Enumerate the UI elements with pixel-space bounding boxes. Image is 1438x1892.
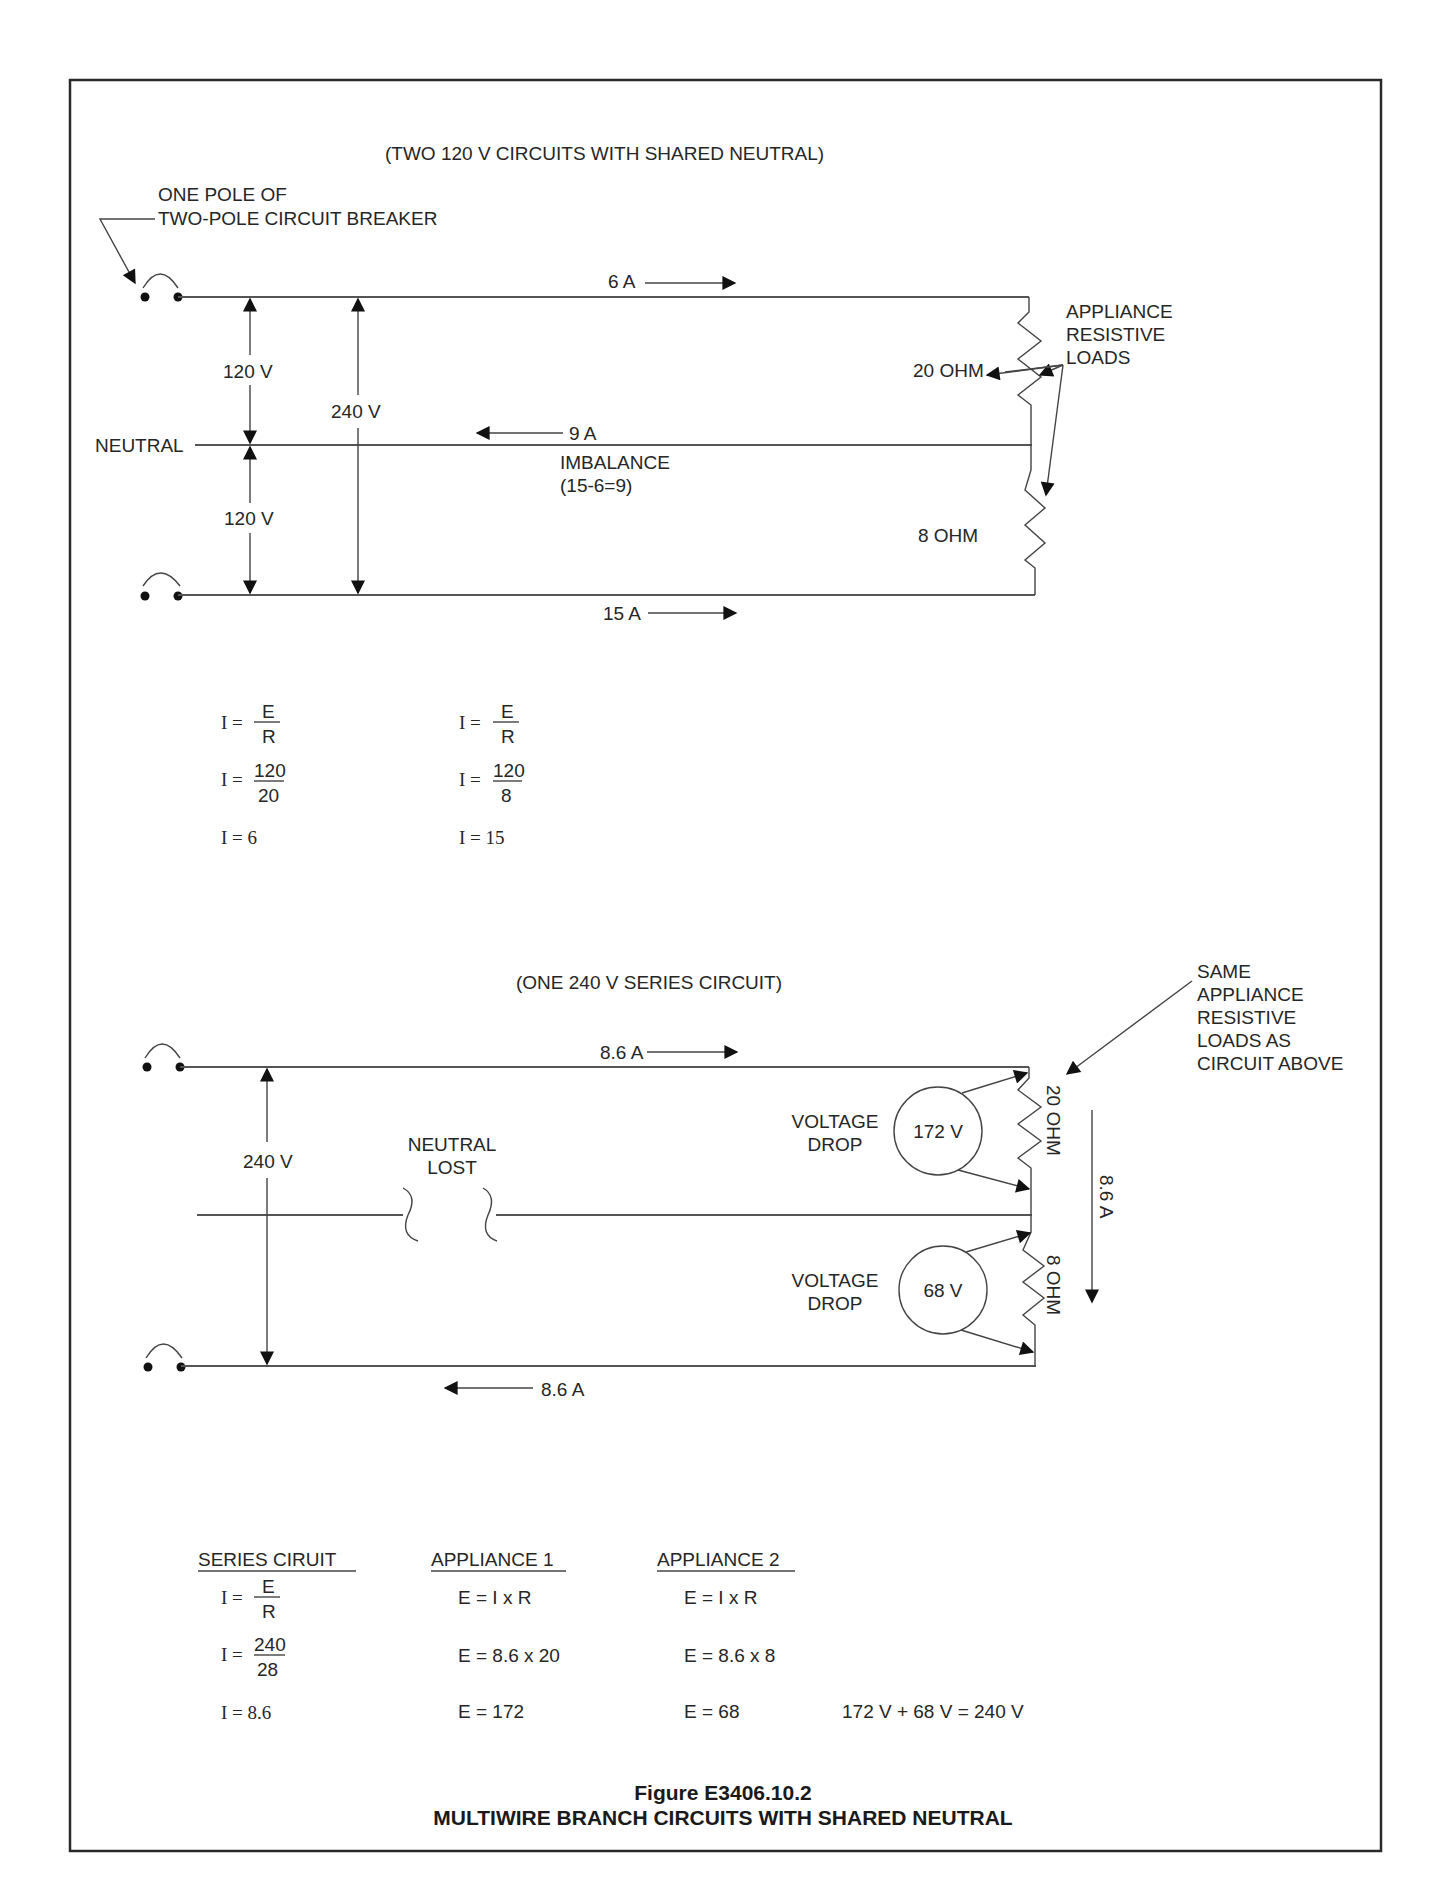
calc-denominator: R (262, 1601, 276, 1622)
calc-denominator: R (501, 726, 515, 747)
calc-row: E = I x R (684, 1587, 757, 1608)
imbalance-label: (15-6=9) (560, 475, 632, 496)
figure-number: Figure E3406.10.2 (634, 1781, 811, 1804)
breaker-pole-icon (143, 1044, 185, 1072)
voltage-sum: 172 V + 68 V = 240 V (842, 1701, 1024, 1722)
imbalance-label: IMBALANCE (560, 452, 670, 473)
calc-result: E = 172 (458, 1701, 524, 1722)
calc-denominator: 28 (257, 1659, 278, 1680)
load-20-ohm-label: 20 OHM (1043, 1085, 1064, 1156)
resistor-8-ohm-icon (1025, 445, 1045, 595)
appliance-loads-label: APPLIANCE (1066, 301, 1173, 322)
voltage-drop-label: VOLTAGE (792, 1111, 879, 1132)
calc-denominator: R (262, 726, 276, 747)
voltage-drop-172-value: 172 V (913, 1121, 963, 1142)
same-loads-label: SAME (1197, 961, 1251, 982)
appliance-loads-label: LOADS (1066, 347, 1130, 368)
neutral-lost-label: LOST (427, 1157, 477, 1178)
load-8-ohm-label: 8 OHM (1043, 1255, 1064, 1315)
breaker-pole-icon (141, 573, 183, 601)
calc-result: E = 68 (684, 1701, 739, 1722)
figure-title: MULTIWIRE BRANCH CIRCUITS WITH SHARED NE… (433, 1806, 1013, 1829)
same-loads-label: CIRCUIT ABOVE (1197, 1053, 1343, 1074)
breaker-leader-arrow-icon (100, 219, 155, 283)
current-15a-label: 15 A (603, 603, 641, 624)
calc-row: E = 8.6 x 8 (684, 1645, 775, 1666)
multiwire-branch-circuit-diagram: (TWO 120 V CIRCUITS WITH SHARED NEUTRAL)… (0, 0, 1438, 1892)
calc-numerator: 120 (254, 760, 286, 781)
voltage-drop-label: DROP (808, 1293, 863, 1314)
calc-row: E = 8.6 x 20 (458, 1645, 560, 1666)
drop-arrow-icon (966, 1233, 1030, 1252)
calc-denominator: 20 (258, 785, 279, 806)
calc-denominator: 8 (501, 785, 512, 806)
drop-arrow-icon (958, 1170, 1029, 1189)
voltage-120-lower: 120 V (224, 508, 274, 529)
calc-heading: APPLIANCE 2 (657, 1549, 780, 1570)
load-20-ohm-label: 20 OHM (913, 360, 984, 381)
current-vertical-label: 8.6 A (1096, 1175, 1117, 1219)
calc-numerator: E (501, 701, 514, 722)
calc-row: E = I x R (458, 1587, 531, 1608)
top-circuit-heading: (TWO 120 V CIRCUITS WITH SHARED NEUTRAL) (385, 143, 824, 164)
calc-result: I = 6 (221, 827, 257, 848)
voltage-240-label: 240 V (243, 1151, 293, 1172)
calc-lhs: I = (221, 769, 243, 790)
same-loads-label: RESISTIVE (1197, 1007, 1296, 1028)
same-loads-label: LOADS AS (1197, 1030, 1291, 1051)
load-8-ohm-label: 8 OHM (918, 525, 978, 546)
neutral-lost-label: NEUTRAL (408, 1134, 497, 1155)
loads-leader-arrow-icon (1046, 365, 1063, 495)
current-top-label: 8.6 A (600, 1042, 644, 1063)
resistor-8-ohm-icon (1023, 1215, 1044, 1366)
breaker-label: ONE POLE OF (158, 184, 287, 205)
voltage-drop-68-value: 68 V (923, 1280, 962, 1301)
calc-lhs: I = (459, 769, 481, 790)
calc-left: I = E R I = 120 20 I = 6 (221, 701, 286, 848)
voltage-240-label: 240 V (331, 401, 381, 422)
current-bottom-label: 8.6 A (541, 1379, 585, 1400)
breaker-pole-icon (141, 274, 183, 302)
calc-heading: APPLIANCE 1 (431, 1549, 554, 1570)
neutral-label: NEUTRAL (95, 435, 184, 456)
same-loads-label: APPLIANCE (1197, 984, 1304, 1005)
calc-series: SERIES CIRUIT I = E R I = 240 28 I = 8.6 (198, 1549, 356, 1723)
breaker-pole-icon (144, 1344, 186, 1372)
calc-heading: SERIES CIRUIT (198, 1549, 337, 1570)
calc-lhs: I = (221, 1587, 243, 1608)
calc-appliance-1: APPLIANCE 1 E = I x R E = 8.6 x 20 E = 1… (431, 1549, 566, 1722)
breaker-label: TWO-POLE CIRCUIT BREAKER (158, 208, 437, 229)
calc-numerator: E (262, 1576, 275, 1597)
calc-lhs: I = (221, 712, 243, 733)
current-6a-label: 6 A (608, 271, 636, 292)
bottom-calculations: SERIES CIRUIT I = E R I = 240 28 I = 8.6… (198, 1549, 1024, 1723)
calc-right: I = E R I = 120 8 I = 15 (459, 701, 525, 848)
voltage-drop-label: VOLTAGE (792, 1270, 879, 1291)
voltage-drop-label: DROP (808, 1134, 863, 1155)
calc-lhs: I = (459, 712, 481, 733)
calc-result: I = 15 (459, 827, 505, 848)
calc-appliance-2: APPLIANCE 2 E = I x R E = 8.6 x 8 E = 68 (657, 1549, 795, 1722)
same-loads-leader-arrow-icon (1067, 981, 1192, 1074)
calc-numerator: E (262, 701, 275, 722)
break-mark-icon (483, 1188, 497, 1241)
top-calculations: I = E R I = 120 20 I = 6 I = E R I = 120… (221, 701, 525, 848)
bottom-circuit-heading: (ONE 240 V SERIES CIRCUIT) (516, 972, 782, 993)
top-circuit: (TWO 120 V CIRCUITS WITH SHARED NEUTRAL)… (95, 143, 1173, 624)
voltage-120-upper: 120 V (223, 361, 273, 382)
bottom-circuit: (ONE 240 V SERIES CIRCUIT) SAME APPLIANC… (143, 961, 1344, 1400)
current-9a-label: 9 A (569, 423, 597, 444)
appliance-loads-label: RESISTIVE (1066, 324, 1165, 345)
calc-numerator: 120 (493, 760, 525, 781)
resistor-20-ohm-icon (1018, 1067, 1041, 1215)
calc-lhs: I = (221, 1644, 243, 1665)
calc-result: I = 8.6 (221, 1702, 271, 1723)
drop-arrow-icon (961, 1330, 1033, 1352)
calc-numerator: 240 (254, 1634, 286, 1655)
break-mark-icon (403, 1188, 418, 1241)
